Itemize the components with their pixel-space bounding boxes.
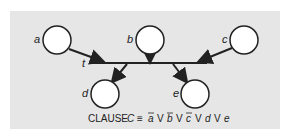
node-b: b bbox=[127, 26, 164, 54]
clause-diagram: t a b c d e CLAUSE C ≡ a V b V c V d bbox=[0, 0, 299, 133]
caption-prefix: CLAUSE bbox=[88, 113, 128, 124]
node-e: e bbox=[173, 80, 209, 108]
node-d-label: d bbox=[82, 87, 89, 99]
caption-equiv: ≡ bbox=[137, 113, 143, 124]
edge-c-to-bar bbox=[200, 48, 232, 61]
node-b-label: b bbox=[127, 33, 133, 45]
edge-bar-to-e bbox=[173, 64, 186, 81]
term-b: b bbox=[167, 113, 173, 124]
or-2: V bbox=[176, 113, 183, 124]
or-3: V bbox=[195, 113, 202, 124]
bar-label: t bbox=[82, 57, 86, 69]
node-e-label: e bbox=[173, 87, 179, 99]
clause-caption: CLAUSE C ≡ a V b V c V d V e bbox=[88, 113, 230, 124]
term-c: c bbox=[186, 113, 191, 124]
node-c-label: c bbox=[222, 33, 228, 45]
or-4: V bbox=[214, 113, 221, 124]
term-e: e bbox=[224, 113, 230, 124]
node-a-label: a bbox=[34, 33, 40, 45]
or-1: V bbox=[157, 113, 164, 124]
term-a: a bbox=[148, 113, 154, 124]
term-d: d bbox=[205, 113, 211, 124]
node-d: d bbox=[82, 80, 119, 108]
edge-bar-to-d bbox=[113, 64, 127, 81]
edge-a-to-bar bbox=[69, 49, 102, 61]
node-a: a bbox=[34, 26, 71, 54]
caption-var: C bbox=[127, 113, 135, 124]
